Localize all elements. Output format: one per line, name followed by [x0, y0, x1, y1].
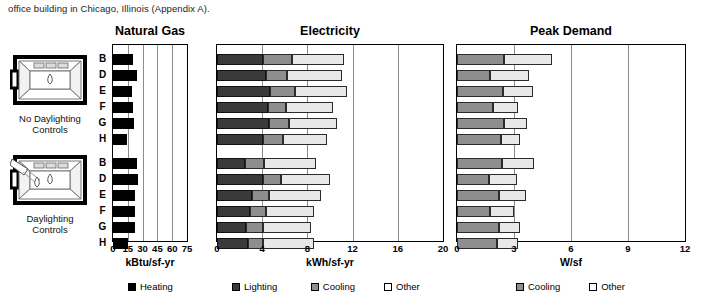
- bar-segment-cooling: [457, 206, 490, 217]
- bar-segment-other: [504, 118, 528, 129]
- panel-title-natural-gas: Natural Gas: [112, 24, 188, 38]
- bar-segment-cooling: [270, 86, 295, 97]
- legend-swatch-lighting: [232, 283, 240, 291]
- bar-segment-lighting: [217, 102, 268, 113]
- bar-segment-heating: [113, 134, 127, 145]
- bar-segment-cooling: [457, 86, 503, 97]
- bar-segment-cooling: [457, 134, 501, 145]
- group-caption-line1: Daylighting: [27, 213, 74, 224]
- gridline: [628, 45, 629, 241]
- bar-segment-lighting: [217, 134, 263, 145]
- bar-segment-other: [499, 190, 527, 201]
- legend-item-other[interactable]: Other: [384, 281, 420, 293]
- bar-segment-cooling: [457, 54, 504, 65]
- legend-swatch-cooling: [311, 283, 319, 291]
- bar-segment-other: [493, 102, 518, 113]
- axis-tick-label: 3: [503, 243, 525, 255]
- axis-tick-label: 0: [446, 243, 468, 255]
- plot-area-peak-demand: [456, 44, 686, 242]
- bar-segment-lighting: [217, 86, 270, 97]
- bar-segment-lighting: [217, 54, 263, 65]
- bar-segment-heating: [113, 86, 132, 97]
- bar-segment-heating: [113, 190, 135, 201]
- bar-segment-other: [289, 118, 336, 129]
- axis-tick-label: 8: [296, 243, 318, 255]
- legend-label-lighting: Lighting: [244, 281, 277, 292]
- axis-unit-electricity: kWh/sf-yr: [216, 256, 444, 268]
- bar-segment-cooling: [457, 222, 499, 233]
- axis-tick-label: 12: [674, 243, 696, 255]
- axis-unit-peak-demand: W/sf: [456, 256, 686, 268]
- row-label-b: B: [96, 157, 109, 168]
- axis-tick-label: 0: [206, 243, 228, 255]
- bar-segment-cooling: [457, 70, 490, 81]
- row-label-g: G: [96, 117, 109, 128]
- bar-segment-other: [287, 70, 342, 81]
- bar-segment-other: [490, 70, 529, 81]
- legend-label-cooling: Cooling: [323, 281, 355, 292]
- legend-swatch-cooling: [516, 283, 524, 291]
- x-axis-peak-demand: 036912: [456, 243, 686, 256]
- legend-item-cooling[interactable]: Cooling: [516, 281, 560, 293]
- row-label-e: E: [96, 189, 109, 200]
- row-label-g: G: [96, 221, 109, 232]
- group-caption-line2: Controls: [32, 124, 67, 135]
- bar-segment-cooling: [269, 118, 289, 129]
- bar-segment-cooling: [263, 134, 282, 145]
- bar-segment-cooling: [268, 102, 286, 113]
- bar-segment-lighting: [217, 174, 263, 185]
- bar-segment-lighting: [217, 190, 252, 201]
- bar-segment-cooling: [457, 174, 489, 185]
- bar-segment-other: [292, 54, 344, 65]
- bar-segment-lighting: [217, 206, 250, 217]
- legend-item-cooling[interactable]: Cooling: [311, 281, 355, 293]
- panel-title-electricity: Electricity: [216, 24, 444, 38]
- bar-segment-other: [490, 206, 514, 217]
- legend-item-heating[interactable]: Heating: [128, 281, 173, 293]
- group-caption-no-daylighting: No Daylighting Controls: [10, 113, 90, 135]
- room-daylighting-icon: [10, 155, 90, 207]
- axis-tick-label: 6: [560, 243, 582, 255]
- bar-segment-lighting: [217, 118, 269, 129]
- plot-area-electricity: [216, 44, 444, 242]
- bar-segment-other: [499, 222, 520, 233]
- plot-area-natural-gas: [112, 44, 188, 242]
- figure-root: office building in Chicago, Illinois (Ap…: [0, 0, 710, 304]
- gridline: [353, 45, 354, 241]
- legend-swatch-heating: [128, 283, 136, 291]
- group-caption-line2: Controls: [32, 224, 67, 235]
- bar-segment-heating: [113, 54, 133, 65]
- bar-segment-other: [264, 158, 316, 169]
- gridline: [398, 45, 399, 241]
- legend-swatch-other: [589, 283, 597, 291]
- bar-segment-heating: [113, 222, 135, 233]
- bar-segment-heating: [113, 206, 135, 217]
- gridline: [172, 45, 173, 241]
- bar-segment-other: [266, 206, 315, 217]
- bar-segment-cooling: [263, 174, 281, 185]
- legend-item-other[interactable]: Other: [589, 281, 625, 293]
- axis-unit-natural-gas: kBtu/sf-yr: [112, 256, 188, 268]
- axis-tick-label: 75: [176, 243, 198, 255]
- room-no-daylighting-icon: [10, 55, 90, 107]
- bar-segment-cooling: [263, 54, 291, 65]
- bar-segment-heating: [113, 174, 138, 185]
- bar-segment-other: [263, 222, 310, 233]
- group-caption-daylighting: Daylighting Controls: [10, 213, 90, 235]
- bar-segment-heating: [113, 102, 133, 113]
- legend-label-other: Other: [601, 281, 625, 292]
- group-icon-daylighting: Daylighting Controls: [10, 155, 90, 235]
- group-caption-line1: No Daylighting: [19, 113, 81, 124]
- legend-item-lighting[interactable]: Lighting: [232, 281, 277, 293]
- row-label-f: F: [96, 205, 109, 216]
- panel-title-peak-demand: Peak Demand: [456, 24, 686, 38]
- bar-segment-cooling: [250, 206, 266, 217]
- bar-segment-lighting: [217, 70, 266, 81]
- axis-tick-label: 9: [617, 243, 639, 255]
- legend: HeatingLightingCoolingOtherCoolingOther: [0, 281, 710, 295]
- legend-label-cooling: Cooling: [528, 281, 560, 292]
- bar-segment-heating: [113, 118, 134, 129]
- bar-segment-other: [503, 86, 533, 97]
- gridline: [571, 45, 572, 241]
- bar-segment-other: [281, 174, 330, 185]
